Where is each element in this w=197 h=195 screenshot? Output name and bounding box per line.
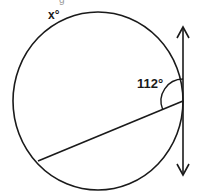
chord [38,101,183,161]
cropped-top-text: g [59,0,65,5]
angle-label: 112° [137,76,163,91]
circle [13,12,183,190]
geometry-diagram: g 112° x° [0,0,197,195]
arc-label: x° [48,8,60,22]
